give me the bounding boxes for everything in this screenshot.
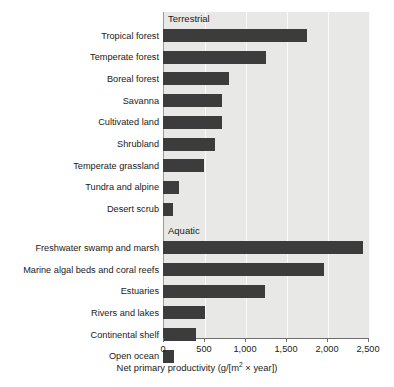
bar bbox=[163, 263, 324, 276]
x-tick-label: 2,500 bbox=[357, 344, 380, 355]
category-label: Freshwater swamp and marsh bbox=[0, 242, 159, 255]
category-label: Tundra and alpine bbox=[0, 181, 159, 194]
gridline bbox=[328, 12, 329, 338]
category-label: Cultivated land bbox=[0, 116, 159, 129]
gridline bbox=[369, 12, 370, 338]
x-tick-label: 1,500 bbox=[275, 344, 298, 355]
bar bbox=[163, 241, 363, 254]
x-axis-title-before: Net primary productivity (g/[m bbox=[117, 362, 239, 373]
x-tick bbox=[286, 338, 287, 342]
x-tick bbox=[204, 338, 205, 342]
category-label: Desert scrub bbox=[0, 203, 159, 216]
x-tick-label: 500 bbox=[196, 344, 211, 355]
bar bbox=[163, 285, 265, 298]
x-tick bbox=[163, 338, 164, 342]
bar bbox=[163, 94, 222, 107]
x-tick bbox=[245, 338, 246, 342]
category-label: Boreal forest bbox=[0, 73, 159, 86]
bar bbox=[163, 116, 222, 129]
category-label: Temperate forest bbox=[0, 51, 159, 64]
category-label: Marine algal beds and coral reefs bbox=[0, 264, 159, 277]
category-label: Tropical forest bbox=[0, 30, 159, 43]
bar bbox=[163, 203, 173, 216]
gridline bbox=[287, 12, 288, 338]
category-label: Temperate grassland bbox=[0, 160, 159, 173]
bar bbox=[163, 306, 205, 319]
bar bbox=[163, 29, 307, 42]
category-label: Rivers and lakes bbox=[0, 307, 159, 320]
bar bbox=[163, 328, 196, 341]
category-label: Open ocean bbox=[0, 350, 159, 363]
category-label: Estuaries bbox=[0, 285, 159, 298]
category-label: Savanna bbox=[0, 95, 159, 108]
group-header-terrestrial: Terrestrial bbox=[168, 13, 210, 25]
x-tick bbox=[327, 338, 328, 342]
category-label: Shrubland bbox=[0, 138, 159, 151]
x-tick-label: 0 bbox=[160, 344, 165, 355]
bar bbox=[163, 181, 179, 194]
x-tick bbox=[368, 338, 369, 342]
x-tick-label: 1,000 bbox=[234, 344, 257, 355]
x-axis-title: Net primary productivity (g/[m2 × year]) bbox=[0, 362, 394, 373]
group-header-aquatic: Aquatic bbox=[168, 225, 200, 237]
bar bbox=[163, 159, 204, 172]
category-label: Continental shelf bbox=[0, 329, 159, 342]
x-axis-title-after: × year]) bbox=[243, 362, 278, 373]
x-tick-label: 2,000 bbox=[316, 344, 339, 355]
bar bbox=[163, 72, 229, 85]
net-primary-productivity-bar-chart: Net primary productivity (g/[m2 × year])… bbox=[0, 0, 394, 387]
bar bbox=[163, 51, 266, 64]
bar bbox=[163, 138, 215, 151]
